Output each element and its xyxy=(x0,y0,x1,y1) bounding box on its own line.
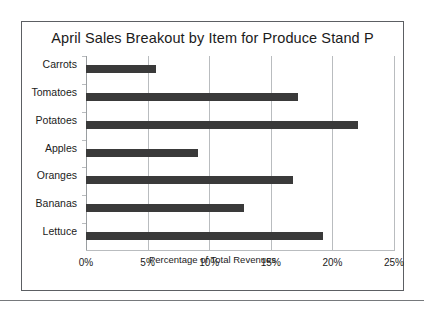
chart-frame: April Sales Breakout by Item for Produce… xyxy=(21,21,404,291)
footer-divider xyxy=(0,300,424,301)
y-axis-tick xyxy=(82,140,86,141)
bar xyxy=(86,93,298,101)
category-label: Lettuce xyxy=(43,225,77,238)
bar-row: Tomatoes xyxy=(86,84,394,112)
y-axis-tick xyxy=(82,223,86,224)
bar xyxy=(86,121,358,129)
bar xyxy=(86,65,156,73)
y-axis-tick xyxy=(82,167,86,168)
y-axis-tick xyxy=(82,195,86,196)
y-axis-tick xyxy=(82,84,86,85)
bar-row: Carrots xyxy=(86,56,394,84)
category-label: Potatoes xyxy=(36,114,77,127)
category-label: Oranges xyxy=(37,169,77,182)
gridline-25pct xyxy=(394,56,395,251)
y-axis-tick xyxy=(82,56,86,57)
y-axis-tick xyxy=(82,112,86,113)
bar-row: Lettuce xyxy=(86,223,394,251)
bar-row: Bananas xyxy=(86,195,394,223)
category-label: Tomatoes xyxy=(31,86,77,99)
bar-row: Apples xyxy=(86,140,394,168)
category-label: Carrots xyxy=(43,58,77,71)
bar xyxy=(86,149,198,157)
bar xyxy=(86,204,244,212)
bar xyxy=(86,176,293,184)
x-axis-title: Percentage of Total Revenues xyxy=(22,254,403,265)
bar xyxy=(86,232,323,240)
bar-row: Potatoes xyxy=(86,112,394,140)
plot-area: CarrotsTomatoesPotatoesApplesOrangesBana… xyxy=(86,56,394,251)
category-label: Bananas xyxy=(36,197,77,210)
category-label: Apples xyxy=(45,142,77,155)
chart-title: April Sales Breakout by Item for Produce… xyxy=(22,30,403,46)
bar-row: Oranges xyxy=(86,167,394,195)
